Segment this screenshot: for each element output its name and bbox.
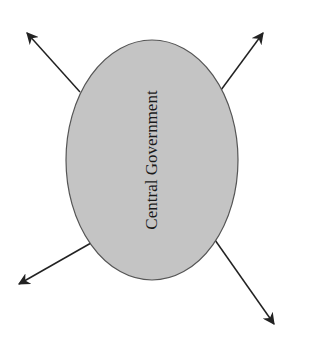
arrow-up-right <box>221 33 263 90</box>
arrow-down-right <box>215 240 274 324</box>
diagram-canvas: Central Government <box>0 0 320 342</box>
arrow-up-left <box>27 33 80 92</box>
central-government-label: Central Government <box>142 90 161 230</box>
arrow-down-left <box>19 243 91 284</box>
